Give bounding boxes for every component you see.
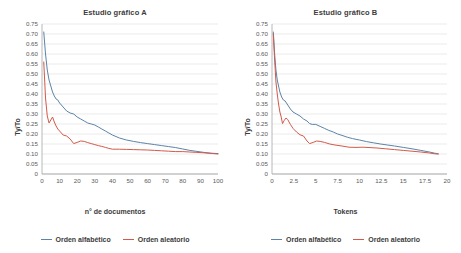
y-tick-label: 0.65	[26, 40, 39, 47]
y-tick-label: 0.05	[256, 160, 269, 167]
legend-item-aleatorio-b: Orden aleatorio	[353, 236, 420, 243]
legend-a: Orden alfabético Orden aleatorio	[0, 236, 230, 243]
x-tick-label: 80	[179, 177, 186, 184]
y-tick-label: 0	[265, 170, 269, 177]
x-axis-label-b: Tokens	[230, 208, 461, 215]
x-tick-label: 5	[314, 177, 318, 184]
y-tick-label: 0.60	[26, 50, 39, 57]
y-tick-label: 0.20	[26, 130, 39, 137]
y-tick-label: 0.45	[256, 80, 269, 87]
y-tick-label: 0.20	[256, 130, 269, 137]
y-tick-label: 0.30	[26, 110, 39, 117]
y-tick-label: 0.15	[26, 140, 39, 147]
y-tick-label: 0.30	[256, 110, 269, 117]
y-tick-label: 0.40	[26, 90, 39, 97]
legend-line-icon-aleatorio-a	[123, 239, 134, 240]
plot-svg-b: 00.050.100.150.200.250.300.350.400.450.5…	[230, 18, 461, 196]
y-tick-label: 0	[35, 170, 39, 177]
y-tick-label: 0.10	[26, 150, 39, 157]
y-tick-label: 0.35	[26, 100, 39, 107]
legend-line-icon-alfabetico-b	[271, 239, 282, 240]
x-tick-label: 60	[144, 177, 151, 184]
y-tick-label: 0.55	[26, 60, 39, 67]
x-tick-label: 17.5	[419, 177, 432, 184]
legend-item-aleatorio-a: Orden aleatorio	[123, 236, 190, 243]
plot-svg-a: 00.050.100.150.200.250.300.350.400.450.5…	[0, 18, 230, 196]
legend-line-icon-aleatorio-b	[353, 239, 364, 240]
y-tick-label: 0.70	[26, 30, 39, 37]
x-tick-label: 0	[40, 177, 44, 184]
chart-title-b: Estudio gráfico B	[230, 8, 461, 17]
legend-label-alfabetico-a: Orden alfabético	[56, 236, 111, 243]
x-tick-label: 20	[444, 177, 451, 184]
x-tick-label: 40	[109, 177, 116, 184]
y-tick-label: 0.60	[256, 50, 269, 57]
y-tick-label: 0.55	[256, 60, 269, 67]
y-tick-label: 0.10	[256, 150, 269, 157]
y-tick-label: 0.70	[256, 30, 269, 37]
x-tick-label: 7.5	[333, 177, 342, 184]
plot-area-a: 00.050.100.150.200.250.300.350.400.450.5…	[0, 18, 230, 196]
y-tick-label: 0.45	[26, 80, 39, 87]
y-tick-label: 0.65	[256, 40, 269, 47]
chart-title-a: Estudio gráfico A	[0, 8, 230, 17]
legend-label-aleatorio-b: Orden aleatorio	[368, 236, 420, 243]
x-tick-label: 2.5	[290, 177, 299, 184]
legend-line-icon-alfabetico-a	[41, 239, 52, 240]
x-tick-label: 0	[270, 177, 274, 184]
y-tick-label: 0.15	[256, 140, 269, 147]
x-tick-label: 15	[400, 177, 407, 184]
x-tick-label: 10	[56, 177, 63, 184]
y-tick-label: 0.40	[256, 90, 269, 97]
x-tick-label: 90	[197, 177, 204, 184]
chart-panel-b: Estudio gráfico B Ty/To 00.050.100.150.2…	[230, 0, 461, 253]
x-tick-label: 10	[356, 177, 363, 184]
x-tick-label: 100	[213, 177, 224, 184]
legend-item-alfabetico-a: Orden alfabético	[41, 236, 111, 243]
y-tick-label: 0.75	[256, 20, 269, 27]
y-tick-label: 0.25	[256, 120, 269, 127]
y-tick-label: 0.05	[26, 160, 39, 167]
legend-label-alfabetico-b: Orden alfabético	[286, 236, 341, 243]
y-tick-label: 0.25	[26, 120, 39, 127]
x-tick-label: 20	[74, 177, 81, 184]
x-tick-label: 50	[127, 177, 134, 184]
plot-area-b: 00.050.100.150.200.250.300.350.400.450.5…	[230, 18, 461, 196]
y-tick-label: 0.35	[256, 100, 269, 107]
y-tick-label: 0.50	[256, 70, 269, 77]
x-tick-label: 30	[91, 177, 98, 184]
x-tick-label: 12.5	[375, 177, 388, 184]
y-tick-label: 0.50	[26, 70, 39, 77]
x-axis-label-a: n° de documentos	[0, 208, 230, 215]
x-tick-label: 70	[162, 177, 169, 184]
legend-b: Orden alfabético Orden aleatorio	[230, 236, 461, 243]
figure-two-line-charts: Estudio gráfico A Ty/To 00.050.100.150.2…	[0, 0, 461, 253]
legend-label-aleatorio-a: Orden aleatorio	[138, 236, 190, 243]
legend-item-alfabetico-b: Orden alfabético	[271, 236, 341, 243]
y-tick-label: 0.75	[26, 20, 39, 27]
chart-panel-a: Estudio gráfico A Ty/To 00.050.100.150.2…	[0, 0, 230, 253]
